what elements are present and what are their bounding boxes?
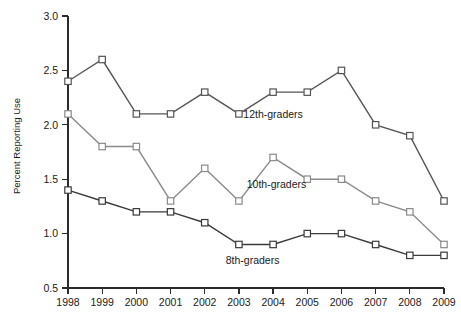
data-point <box>441 198 447 204</box>
data-point <box>372 198 378 204</box>
data-point <box>202 89 208 95</box>
x-axis: 1998199920002001200220032004200520062007… <box>56 288 456 308</box>
data-point <box>167 198 173 204</box>
series-annotation: 10th-graders <box>247 178 307 190</box>
y-axis-tick-label: 2.5 <box>43 64 58 76</box>
x-axis-tick-label: 2001 <box>159 296 183 308</box>
data-point <box>407 209 413 215</box>
x-axis-tick-label: 2000 <box>125 296 149 308</box>
data-point <box>338 67 344 73</box>
data-point <box>167 111 173 117</box>
y-axis-title-text: Percent Reporting Use <box>11 98 22 194</box>
series-8th-graders <box>65 187 447 259</box>
data-point <box>304 230 310 236</box>
data-point <box>202 165 208 171</box>
data-point <box>133 143 139 149</box>
x-axis-tick-label: 1999 <box>91 296 115 308</box>
y-axis: 0.51.01.52.02.53.0 <box>43 10 68 294</box>
chart-canvas: 0.51.01.52.02.53.0 199819992000200120022… <box>0 0 461 312</box>
data-point <box>65 78 71 84</box>
data-point <box>133 111 139 117</box>
data-point <box>338 230 344 236</box>
x-axis-tick-label: 2002 <box>193 296 217 308</box>
y-axis-tick-label: 3.0 <box>43 10 58 22</box>
x-axis-tick-label: 1998 <box>56 296 80 308</box>
y-axis-tick-label: 0.5 <box>43 282 58 294</box>
y-axis-tick-label: 2.0 <box>43 119 58 131</box>
y-axis-tick-label: 1.0 <box>43 227 58 239</box>
x-axis-tick-label: 2007 <box>364 296 388 308</box>
x-axis-tick-label: 2008 <box>398 296 422 308</box>
data-point <box>99 143 105 149</box>
data-point <box>202 220 208 226</box>
data-point <box>65 187 71 193</box>
line-chart: 0.51.01.52.02.53.0 199819992000200120022… <box>0 0 461 312</box>
y-axis-tick-label: 1.5 <box>43 173 58 185</box>
y-axis-title: Percent Reporting Use <box>11 98 22 194</box>
data-point <box>338 176 344 182</box>
data-point <box>270 154 276 160</box>
data-point <box>236 198 242 204</box>
x-axis-tick-label: 2009 <box>432 296 456 308</box>
data-point <box>133 209 139 215</box>
data-point <box>167 209 173 215</box>
x-axis-tick-label: 2003 <box>227 296 251 308</box>
data-point <box>441 241 447 247</box>
data-point <box>407 132 413 138</box>
data-point <box>65 111 71 117</box>
data-point <box>441 252 447 258</box>
series-annotation: 12th-graders <box>243 108 303 120</box>
data-point <box>99 56 105 62</box>
data-point <box>304 89 310 95</box>
series-annotation: 8th-graders <box>226 254 280 266</box>
x-axis-tick-label: 2004 <box>261 296 285 308</box>
data-point <box>270 89 276 95</box>
data-point <box>236 111 242 117</box>
series-line <box>68 190 444 255</box>
x-axis-tick-label: 2005 <box>296 296 320 308</box>
data-point <box>270 241 276 247</box>
data-point <box>407 252 413 258</box>
data-point <box>99 198 105 204</box>
data-point <box>372 241 378 247</box>
x-axis-tick-label: 2006 <box>330 296 354 308</box>
data-point <box>236 241 242 247</box>
data-point <box>372 122 378 128</box>
series-layer <box>65 56 447 258</box>
